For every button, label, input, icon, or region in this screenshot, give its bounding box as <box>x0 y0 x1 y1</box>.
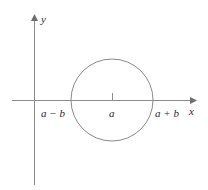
figure-container: a − b a a + b x y <box>0 0 208 190</box>
x-axis-arrowhead <box>190 97 197 104</box>
x-axis-label: x <box>188 105 194 117</box>
y-axis-label: y <box>40 13 46 25</box>
left-intercept-label: a − b <box>41 107 65 119</box>
center-label: a <box>109 107 115 119</box>
y-axis-arrowhead <box>31 14 38 21</box>
coordinate-plane-figure: a − b a a + b x y <box>0 0 208 190</box>
right-intercept-label: a + b <box>155 107 179 119</box>
